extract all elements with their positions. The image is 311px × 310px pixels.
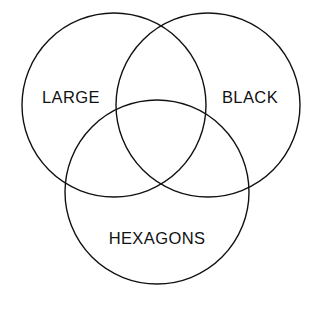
set-label-large: LARGE (42, 88, 100, 106)
venn-diagram: LARGE BLACK HEXAGONS (0, 0, 311, 310)
venn-diagram-canvas: LARGE BLACK HEXAGONS (0, 0, 311, 310)
set-label-hexagons: HEXAGONS (109, 229, 206, 247)
diagram-background (0, 0, 311, 310)
set-label-black: BLACK (222, 88, 278, 106)
